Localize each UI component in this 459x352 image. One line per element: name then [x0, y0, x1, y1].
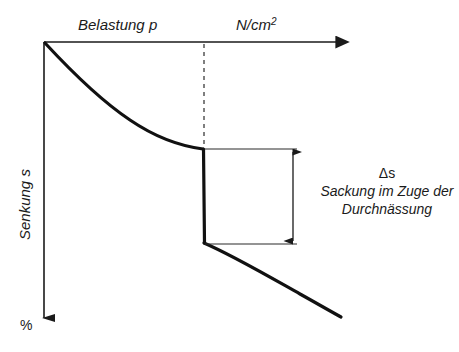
delta-s-caption-line-1: Sackung im Zuge der: [320, 183, 454, 199]
settlement-curve-diagram: Belastung p N/cm2 Senkung s % Δs Sackung…: [0, 0, 459, 352]
figure-canvas: Belastung p N/cm2 Senkung s % Δs Sackung…: [0, 0, 459, 352]
y-axis-label: Senkung s: [16, 169, 33, 240]
curve-collapse-step: [204, 149, 205, 243]
delta-s-symbol: Δs: [379, 165, 395, 181]
x-axis-units-base: N/cm: [236, 16, 271, 33]
x-axis-units: N/cm2: [236, 16, 277, 33]
x-axis-label: Belastung p: [78, 16, 157, 33]
delta-s-caption-line-2: Durchnässung: [342, 201, 432, 217]
y-axis-units: %: [20, 317, 32, 333]
x-axis-units-exponent: 2: [270, 16, 277, 27]
